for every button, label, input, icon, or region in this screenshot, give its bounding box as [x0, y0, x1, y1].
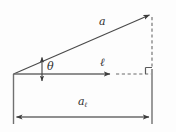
- vector-a-label: a: [99, 16, 106, 27]
- vector-ell-label: ℓ: [100, 57, 105, 68]
- right-angle-marker-icon: [146, 68, 153, 75]
- dimension-a-ell-label: aℓ: [78, 96, 87, 108]
- dimension-a-ell-subscript: ℓ: [85, 101, 88, 109]
- angle-theta-label: θ: [47, 61, 54, 72]
- vector-projection-figure: a ℓ θ aℓ: [0, 0, 176, 132]
- vector-a-line: [14, 15, 150, 74]
- figure-canvas: [0, 0, 176, 132]
